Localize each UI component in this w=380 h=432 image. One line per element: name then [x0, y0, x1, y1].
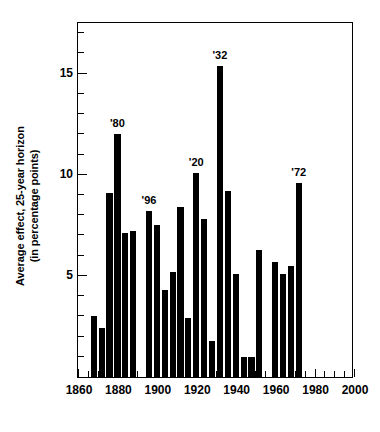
x-tick-label: 1880	[105, 383, 132, 397]
y-tick-minor	[78, 194, 84, 195]
y-tick-label: 10	[60, 167, 73, 181]
bar	[296, 183, 302, 377]
bar	[201, 219, 207, 377]
x-tick-minor	[147, 371, 148, 377]
y-tick-major: 15	[78, 73, 87, 74]
chart-figure: Average effect, 25-year horizon (in perc…	[0, 0, 380, 432]
y-tick-minor	[78, 336, 84, 337]
x-tick-label: 1980	[302, 383, 329, 397]
y-tick-minor	[78, 255, 84, 256]
bar-annotation: '20	[189, 156, 204, 168]
bar	[225, 191, 231, 377]
x-tick-minor	[206, 371, 207, 377]
x-tick-minor	[108, 371, 109, 377]
bar	[185, 318, 191, 377]
bar	[248, 357, 254, 377]
y-tick-minor	[78, 133, 84, 134]
y-tick-minor	[78, 234, 84, 235]
bar	[209, 341, 215, 377]
x-tick-label: 1920	[184, 383, 211, 397]
bar	[233, 274, 239, 377]
bar-annotation: '72	[291, 166, 306, 178]
x-tick-major: 1960	[275, 369, 276, 377]
x-tick-label: 1860	[66, 383, 93, 397]
x-tick-minor	[216, 371, 217, 377]
x-tick-minor	[324, 371, 325, 377]
bar-annotation: '80	[110, 117, 125, 129]
y-tick-minor	[78, 52, 84, 53]
x-tick-minor	[305, 371, 306, 377]
x-tick-minor	[295, 371, 296, 377]
plot-area: 51015 18601880190019201940196019802000 '…	[77, 22, 353, 378]
bar	[272, 262, 278, 377]
x-tick-label: 1900	[144, 383, 171, 397]
x-tick-minor	[186, 371, 187, 377]
x-tick-major: 1940	[236, 369, 237, 377]
x-tick-minor	[246, 371, 247, 377]
x-tick-major: 2000	[354, 369, 355, 377]
bar	[177, 207, 183, 377]
bar-annotation: '32	[213, 49, 228, 61]
bar	[256, 250, 262, 377]
bar	[288, 266, 294, 377]
y-tick-minor	[78, 154, 84, 155]
x-tick-label: 1960	[263, 383, 290, 397]
x-tick-minor	[344, 371, 345, 377]
bar	[193, 173, 199, 377]
x-tick-minor	[255, 371, 256, 377]
bar	[130, 231, 136, 377]
x-tick-major: 1860	[78, 369, 79, 377]
bar	[162, 290, 168, 377]
x-tick-label: 1940	[223, 383, 250, 397]
x-tick-minor	[98, 371, 99, 377]
y-tick-minor	[78, 315, 84, 316]
bar	[91, 316, 97, 377]
y-tick-label: 15	[60, 66, 73, 80]
bar	[154, 225, 160, 377]
y-axis-label: Average effect, 25-year horizon (in perc…	[13, 91, 41, 321]
bar	[146, 211, 152, 377]
x-tick-minor	[137, 371, 138, 377]
y-tick-major: 5	[78, 275, 87, 276]
x-tick-major: 1920	[196, 369, 197, 377]
y-tick-major: 10	[78, 174, 87, 175]
y-tick-minor	[78, 93, 84, 94]
bar-annotation: '96	[142, 194, 157, 206]
x-tick-major: 1980	[315, 369, 316, 377]
x-tick-minor	[226, 371, 227, 377]
bar	[217, 66, 223, 378]
bar	[99, 328, 105, 377]
bar	[122, 233, 128, 377]
y-tick-minor	[78, 356, 84, 357]
x-tick-minor	[334, 371, 335, 377]
bar	[106, 193, 112, 377]
x-tick-major: 1900	[157, 369, 158, 377]
y-tick-minor	[78, 214, 84, 215]
x-tick-minor	[127, 371, 128, 377]
bar	[170, 272, 176, 377]
y-tick-minor	[78, 113, 84, 114]
x-tick-minor	[167, 371, 168, 377]
bar	[280, 274, 286, 377]
bar	[114, 134, 120, 377]
bar-series	[78, 23, 352, 377]
y-tick-minor	[78, 295, 84, 296]
x-tick-label: 2000	[342, 383, 369, 397]
x-tick-major: 1880	[117, 369, 118, 377]
x-tick-minor	[265, 371, 266, 377]
x-tick-minor	[177, 371, 178, 377]
x-tick-minor	[285, 371, 286, 377]
y-tick-label: 5	[66, 268, 73, 282]
y-tick-minor	[78, 32, 84, 33]
x-tick-minor	[88, 371, 89, 377]
